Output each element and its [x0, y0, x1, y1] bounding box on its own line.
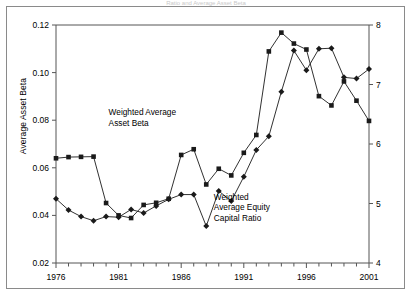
series-marker-1 [54, 156, 59, 161]
x-axis-tick-label: 2001 [349, 272, 389, 282]
series-marker-1 [204, 182, 209, 187]
series-marker-2 [303, 67, 309, 73]
chart-frame: Average Asset Beta Capital Asset Ratio (… [6, 6, 405, 289]
series-marker-1 [129, 216, 134, 221]
series-marker-1 [229, 173, 234, 178]
series-marker-1 [292, 41, 297, 46]
series-marker-1 [354, 98, 359, 103]
annotation-line: Asset Beta [109, 118, 177, 129]
x-axis-tick-label: 1981 [99, 272, 139, 282]
series-marker-1 [242, 151, 247, 156]
right-axis-tick-label: 6 [376, 139, 381, 149]
series-line-1 [56, 33, 369, 218]
series-marker-2 [141, 210, 147, 216]
series-marker-2 [103, 214, 109, 220]
right-axis-tick-label: 5 [376, 199, 381, 209]
series-marker-1 [254, 133, 259, 138]
left-axis-tick-label: 0.04 [7, 210, 49, 220]
chart-annotation-2: WeightedAverage EquityCapital Ratio [214, 192, 270, 224]
x-axis-tick-label: 1996 [286, 272, 326, 282]
left-axis-tick-label: 0.06 [7, 163, 49, 173]
left-axis-tick-label: 0.10 [7, 68, 49, 78]
annotation-line: Weighted Average [109, 107, 177, 118]
series-marker-2 [178, 192, 184, 198]
series-marker-1 [367, 119, 372, 124]
series-marker-1 [317, 94, 322, 99]
series-marker-2 [91, 218, 97, 224]
annotation-line: Average Equity [214, 202, 270, 213]
series-marker-2 [191, 192, 197, 198]
series-line-2 [56, 48, 369, 226]
series-marker-1 [267, 49, 272, 54]
series-marker-1 [179, 153, 184, 158]
series-marker-1 [279, 30, 284, 35]
series-marker-1 [104, 201, 109, 206]
series-marker-1 [191, 147, 196, 152]
series-marker-2 [128, 206, 134, 212]
series-marker-1 [216, 166, 221, 171]
right-axis-tick-label: 8 [376, 20, 381, 30]
series-marker-1 [79, 155, 84, 160]
x-axis-tick-label: 1976 [36, 272, 76, 282]
series-marker-2 [291, 48, 297, 54]
series-marker-1 [304, 47, 309, 52]
series-marker-2 [203, 223, 209, 229]
left-axis-tick-label: 0.02 [7, 258, 49, 268]
x-axis-tick-label: 1986 [161, 272, 201, 282]
left-axis-tick-label: 0.08 [7, 115, 49, 125]
annotation-line: Capital Ratio [214, 213, 270, 224]
left-axis-tick-label: 0.12 [7, 20, 49, 30]
series-marker-1 [66, 155, 71, 160]
x-axis-tick-label: 1991 [224, 272, 264, 282]
right-axis-tick-label: 4 [376, 258, 381, 268]
chart-plot-area [7, 7, 404, 288]
series-marker-2 [241, 174, 247, 180]
series-marker-1 [329, 103, 334, 108]
series-marker-2 [316, 46, 322, 52]
series-marker-1 [141, 203, 146, 208]
chart-annotation-1: Weighted AverageAsset Beta [109, 107, 177, 128]
series-marker-1 [91, 154, 96, 159]
right-axis-tick-label: 7 [376, 80, 381, 90]
annotation-line: Weighted [214, 192, 270, 203]
series-marker-2 [278, 89, 284, 95]
series-marker-2 [78, 214, 84, 220]
figure-container: Ratio and Average Asset Beta Average Ass… [0, 0, 412, 296]
series-marker-2 [328, 45, 334, 51]
